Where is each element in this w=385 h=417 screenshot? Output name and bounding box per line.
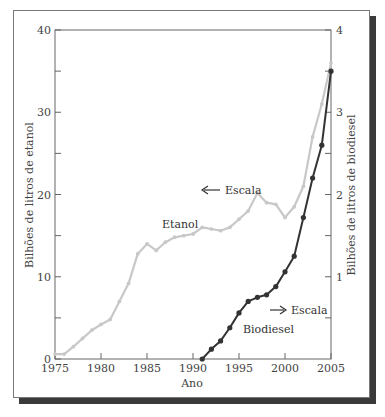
data-point [72,345,76,349]
data-point [191,232,195,236]
y-tick-label-left: 30 [37,106,51,119]
x-tick-label: 1980 [87,362,115,375]
data-point [108,318,112,322]
data-point [228,226,232,230]
x-axis-label: Ano [180,377,203,390]
svg-text:Escala: Escala [225,184,262,197]
data-point [310,175,315,180]
dual-axis-line-chart: 1975198019851990199520002005010203040123… [0,0,385,417]
data-point [320,102,324,106]
escala-right-annotation: Escala [270,304,328,317]
axes: 1975198019851990199520002005010203040123… [37,24,345,375]
data-point [164,240,168,244]
data-point [200,226,204,230]
data-point [218,338,223,343]
etanol-label: Etanol [162,218,199,231]
data-point [200,356,205,361]
series-biodiesel [200,69,334,362]
data-point [237,217,241,221]
data-point [118,300,122,304]
data-point [236,310,241,315]
data-point [283,216,287,220]
data-point [210,227,214,231]
data-point [173,235,177,239]
y-tick-label-left: 20 [37,189,51,202]
data-point [99,323,103,327]
y-tick-label-right: 3 [336,106,343,119]
data-point [292,205,296,209]
data-point [255,295,260,300]
x-tick-label: 1995 [225,362,253,375]
data-point [81,337,85,341]
data-point [264,292,269,297]
data-point [227,325,232,330]
data-point [219,229,223,233]
x-tick-label: 2000 [271,362,299,375]
data-point [329,61,333,65]
data-point [273,284,278,289]
data-point [311,135,315,139]
y-tick-label-right: 2 [336,189,343,202]
x-tick-label: 2005 [317,362,345,375]
plot-area [55,30,331,359]
y-tick-label-right: 4 [336,24,343,37]
data-point [265,201,269,205]
data-point [246,209,250,213]
data-point [182,234,186,238]
x-tick-label: 1985 [133,362,161,375]
biodiesel-label: Biodiesel [243,323,294,336]
data-point [209,347,214,352]
data-point [274,202,278,206]
data-point [90,328,94,332]
data-point [301,215,306,220]
data-point [62,352,66,356]
data-point [282,269,287,274]
data-point [136,252,140,256]
y-axis-label-left: Bilhões de litros de etanol [23,122,36,268]
x-tick-label: 1990 [179,362,207,375]
data-point [154,249,158,253]
data-point [246,299,251,304]
data-point [319,143,324,148]
y-axis-label-right: Bilhões de litros de biodiesel [345,114,358,275]
y-tick-label-left: 10 [37,271,51,284]
data-point [328,69,333,74]
svg-text:Escala: Escala [291,304,328,317]
y-tick-label-right: 1 [336,271,343,284]
data-point [53,352,57,356]
y-tick-label-left: 0 [44,353,51,366]
data-point [127,281,131,285]
data-point [302,184,306,188]
y-tick-label-left: 40 [37,24,51,37]
escala-left-annotation: Escala [202,184,262,197]
labels: Ano Bilhões de litros de etanol Bilhões … [23,114,358,390]
data-point [292,254,297,259]
data-point [145,242,149,246]
